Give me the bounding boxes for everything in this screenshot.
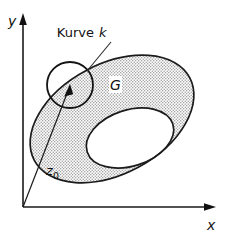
z0-label-subscript: 0 (53, 170, 59, 181)
complex-plane-region-diagram: Kurve k G z 0 y x (0, 0, 229, 238)
x-axis-label: x (206, 217, 216, 233)
curve-k-label-name: k (99, 25, 107, 40)
region-g-fill (0, 0, 229, 238)
region-g-label-group: G (109, 76, 122, 93)
curve-k-label-group: Kurve k (57, 25, 107, 40)
y-axis-label: y (7, 13, 17, 29)
region-g-label: G (110, 77, 121, 93)
figure-canvas: Kurve k G z 0 y x (0, 0, 229, 238)
curve-k-label-word: Kurve (57, 25, 94, 40)
